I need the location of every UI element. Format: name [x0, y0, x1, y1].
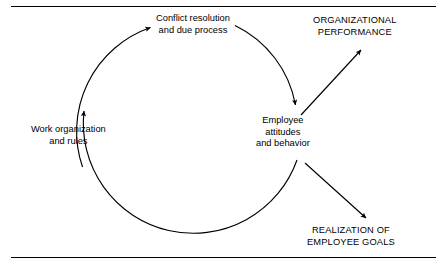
outcome-line: EMPLOYEE GOALS	[307, 237, 395, 249]
node-line: attitudes	[256, 127, 310, 139]
arrow-employee-to-organizational-performance	[301, 50, 361, 115]
outcome-label-organizational-performance: ORGANIZATIONAL PERFORMANCE	[313, 15, 397, 38]
arrow-employee-to-employee-goals	[305, 163, 366, 218]
node-label-conflict-resolution: Conflict resolution and due process	[156, 13, 230, 36]
node-line: Conflict resolution	[156, 13, 230, 25]
outcome-line: ORGANIZATIONAL	[313, 15, 397, 27]
node-label-employee-attitudes: Employee attitudes and behavior	[256, 115, 310, 150]
node-line: Work organization	[31, 124, 106, 136]
arrow-conflict-to-employee	[235, 26, 296, 106]
figure-container: Conflict resolution and due process Work…	[0, 0, 447, 272]
outcome-line: PERFORMANCE	[313, 27, 397, 39]
node-line: and rules	[31, 136, 106, 148]
node-line: Employee	[256, 115, 310, 127]
outcome-label-realization-of-employee-goals: REALIZATION OF EMPLOYEE GOALS	[307, 225, 395, 248]
outcome-line: REALIZATION OF	[307, 225, 395, 237]
node-line: and due process	[156, 25, 230, 37]
node-line: and behavior	[256, 138, 310, 150]
node-label-work-organization: Work organization and rules	[31, 124, 106, 147]
